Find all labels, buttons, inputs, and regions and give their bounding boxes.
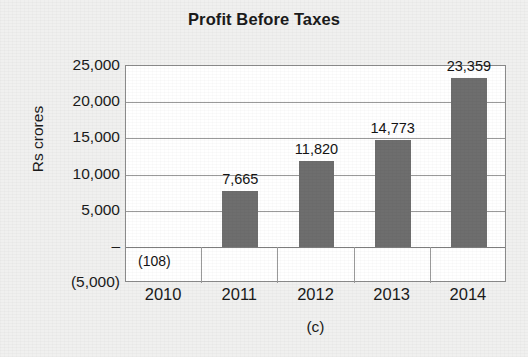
x-tick-mark [430,247,431,283]
x-tick-mark [277,247,278,283]
y-tick-label: 15,000 [10,128,120,146]
x-tick-mark [201,247,202,283]
x-axis-tick-marks [125,247,506,283]
y-tick-label: 25,000 [10,56,120,74]
bar-value-label-2011: 7,665 [222,171,258,187]
x-axis-tick-labels: 2010 2011 2012 2013 2014 [125,285,506,309]
x-tick-label-2012: 2012 [276,285,356,304]
y-tick-label: (5,000) [10,273,120,291]
bar-value-label-2013: 14,773 [371,120,415,136]
x-tick-mark [354,247,355,283]
x-tick-label-2013: 2013 [352,285,432,304]
chart-figure: Profit Before Taxes Rs crores 25,000 20,… [0,0,528,357]
bar-2013[interactable] [375,140,411,247]
y-tick-label: 5,000 [10,201,120,219]
gridline-15000 [126,138,505,139]
y-tick-label: – [10,237,120,255]
bar-value-label-2012: 11,820 [295,141,338,157]
bar-2014[interactable] [451,78,487,247]
y-tick-label: 20,000 [10,92,120,110]
x-tick-label-2014: 2014 [428,285,508,304]
x-tick-label-2010: 2010 [123,285,203,304]
figure-caption: (c) [125,318,506,336]
x-tick-label-2011: 2011 [199,285,279,304]
chart-title: Profit Before Taxes [0,10,528,29]
bar-2012[interactable] [299,161,335,246]
y-axis-tick-labels: 25,000 20,000 15,000 10,000 5,000 – (5,0… [8,65,120,282]
y-tick-label: 10,000 [10,165,120,183]
gridline-20000 [126,102,505,103]
bar-value-label-2014: 23,359 [447,58,491,74]
bar-2011[interactable] [222,191,258,246]
